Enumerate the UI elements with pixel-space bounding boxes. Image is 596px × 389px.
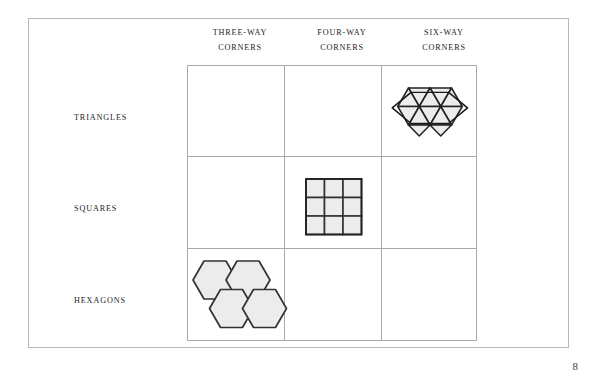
- cell-hexagons-six-way: [381, 249, 478, 341]
- column-header-line2: CORNERS: [188, 41, 292, 56]
- square-tiling-figure: [305, 178, 363, 236]
- row-label-squares: SQUARES: [74, 204, 182, 213]
- row-label-hexagons: HEXAGONS: [74, 296, 182, 305]
- column-header-three-way: THREE-WAY CORNERS: [188, 26, 292, 55]
- column-header-line1: THREE-WAY: [213, 28, 268, 37]
- cell-squares-three-way: [187, 157, 284, 249]
- column-header-line1: FOUR-WAY: [317, 28, 366, 37]
- page: THREE-WAY CORNERS FOUR-WAY CORNERS SIX-W…: [0, 0, 596, 389]
- tiling-matrix: [187, 65, 477, 341]
- cell-squares-four-way: [284, 157, 381, 249]
- cell-triangles-four-way: [284, 65, 381, 157]
- page-number: 8: [573, 360, 579, 372]
- column-header-four-way: FOUR-WAY CORNERS: [290, 26, 394, 55]
- cell-triangles-six-way: [381, 65, 478, 157]
- cell-triangles-three-way: [187, 65, 284, 157]
- column-header-line2: CORNERS: [290, 41, 394, 56]
- row-label-triangles: TRIANGLES: [74, 113, 182, 122]
- cell-squares-six-way: [381, 157, 478, 249]
- triangle-tiling-figure: [387, 81, 473, 143]
- column-header-line1: SIX-WAY: [424, 28, 464, 37]
- column-header-six-way: SIX-WAY CORNERS: [392, 26, 496, 55]
- cell-hexagons-three-way: [187, 249, 284, 341]
- column-header-line2: CORNERS: [392, 41, 496, 56]
- cell-hexagons-four-way: [284, 249, 381, 341]
